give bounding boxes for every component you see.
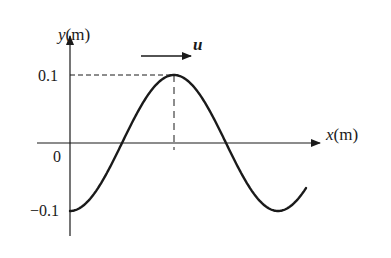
x-axis-label: x(m) (325, 125, 358, 144)
tick-label-0.1: 0.1 (38, 67, 58, 84)
tick-label-neg-0.1: −0.1 (30, 202, 59, 219)
origin-label: 0 (53, 148, 61, 165)
y-axis-label: y(m) (56, 25, 90, 44)
wave-diagram: u y(m) x(m) 0.1 0 −0.1 (0, 0, 391, 258)
velocity-label: u (193, 35, 202, 54)
